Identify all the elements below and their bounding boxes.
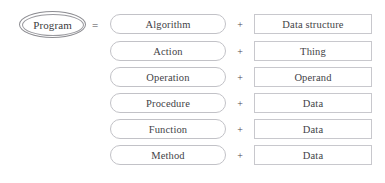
equation-diagram: Program = Algorithm + Data structure Act… <box>0 0 385 183</box>
term-left-action[interactable]: Action <box>110 41 226 61</box>
plus-operator: + <box>226 46 254 57</box>
equation-row: Operation + Operand <box>110 67 372 87</box>
term-left-algorithm[interactable]: Algorithm <box>110 14 226 34</box>
equation-rows: Algorithm + Data structure Action + Thin… <box>0 0 385 183</box>
term-left-method[interactable]: Method <box>110 145 226 165</box>
equation-row: Method + Data <box>110 145 372 165</box>
equation-row: Action + Thing <box>110 41 372 61</box>
term-right-operand[interactable]: Operand <box>254 67 372 87</box>
plus-operator: + <box>226 19 254 30</box>
term-right-data[interactable]: Data <box>254 145 372 165</box>
equation-row: Procedure + Data <box>110 93 372 113</box>
plus-operator: + <box>226 98 254 109</box>
equation-row: Algorithm + Data structure <box>110 14 372 34</box>
plus-operator: + <box>226 150 254 161</box>
plus-operator: + <box>226 72 254 83</box>
term-left-procedure[interactable]: Procedure <box>110 93 226 113</box>
term-left-function[interactable]: Function <box>110 119 226 139</box>
equation-row: Function + Data <box>110 119 372 139</box>
term-left-operation[interactable]: Operation <box>110 67 226 87</box>
term-right-data-structure[interactable]: Data structure <box>254 14 372 34</box>
plus-operator: + <box>226 124 254 135</box>
term-right-thing[interactable]: Thing <box>254 41 372 61</box>
term-right-data[interactable]: Data <box>254 93 372 113</box>
term-right-data[interactable]: Data <box>254 119 372 139</box>
